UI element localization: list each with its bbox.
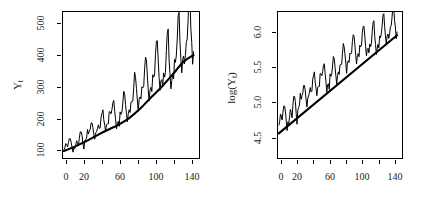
x-tick-mark [102, 160, 103, 164]
y-tick-mark [272, 67, 276, 68]
x-tick-mark [330, 160, 331, 164]
chart-panel-log: log(Yt) 6.0 5.5 5.0 4.5 0 20 60 [215, 0, 429, 198]
y-axis-title-left-text: Y [11, 82, 23, 90]
y-tick-label: 100 [36, 143, 46, 158]
plot-area-raw [62, 11, 200, 159]
x-tick-label: 20 [292, 172, 302, 182]
trend-line [279, 35, 397, 133]
y-tick-mark [57, 150, 61, 151]
y-tick-mark [57, 23, 61, 24]
y-axis-title-right-text: Y [225, 78, 237, 86]
x-tick-label: 140 [388, 172, 403, 182]
y-tick-label: 5.0 [253, 96, 263, 109]
x-tick-label: 100 [149, 172, 164, 182]
y-tick-mark [57, 87, 61, 88]
observed-series-line [279, 12, 397, 131]
y-tick-mark [272, 32, 276, 33]
y-axis-title-left-subscript: t [16, 80, 25, 82]
y-axis-title-left: Yt [12, 80, 24, 90]
x-tick-label: 100 [355, 172, 370, 182]
x-tick-mark [84, 160, 85, 164]
x-tick-label: 0 [64, 172, 69, 182]
y-axis-title-right-subscript: t [230, 76, 239, 78]
x-tick-label: 60 [325, 172, 335, 182]
x-tick-mark [138, 160, 139, 164]
x-tick-mark [346, 160, 347, 164]
x-tick-mark [297, 160, 298, 164]
x-tick-label: 0 [279, 172, 284, 182]
y-tick-label: 300 [36, 80, 46, 95]
x-tick-label: 60 [115, 172, 125, 182]
x-tick-mark [66, 160, 67, 164]
y-axis-title-right-prefix: log( [225, 86, 237, 104]
x-tick-mark [313, 160, 314, 164]
y-tick-label: 200 [36, 112, 46, 127]
y-axis-title-right: log(Yt) [226, 72, 238, 104]
y-tick-label: 4.5 [253, 132, 263, 145]
x-tick-mark [379, 160, 380, 164]
x-tick-mark [281, 160, 282, 164]
x-tick-label: 140 [185, 172, 200, 182]
x-tick-mark [120, 160, 121, 164]
y-tick-label: 400 [36, 48, 46, 63]
plot-area-log [277, 11, 403, 159]
x-tick-mark [156, 160, 157, 164]
y-tick-mark [272, 138, 276, 139]
y-tick-mark [272, 102, 276, 103]
y-tick-label: 6.0 [253, 26, 263, 39]
x-tick-mark [192, 160, 193, 164]
y-tick-label: 5.5 [253, 61, 263, 74]
series-canvas-raw [63, 12, 199, 158]
y-tick-label: 500 [36, 16, 46, 31]
x-tick-mark [362, 160, 363, 164]
y-tick-mark [57, 55, 61, 56]
series-canvas-log [278, 12, 402, 158]
figure-container: Yt 500 400 300 200 100 0 20 [0, 0, 429, 198]
x-tick-label: 20 [79, 172, 89, 182]
x-tick-mark [174, 160, 175, 164]
y-tick-mark [57, 119, 61, 120]
chart-panel-raw: Yt 500 400 300 200 100 0 20 [0, 0, 215, 198]
x-tick-mark [395, 160, 396, 164]
observed-series-line [64, 12, 194, 152]
